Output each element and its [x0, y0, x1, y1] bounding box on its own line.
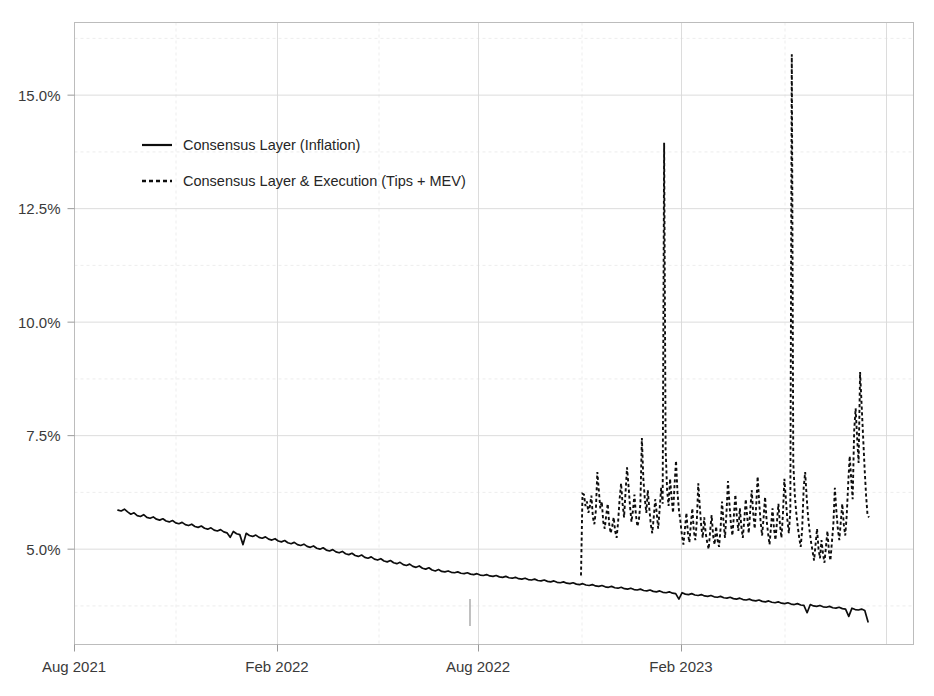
x-axis-tick-label: Aug 2022 [446, 658, 510, 675]
x-axis-tick-label: Aug 2021 [42, 658, 106, 675]
y-axis-tick-label: 15.0% [18, 87, 61, 104]
legend-label-consensus-layer-inflation: Consensus Layer (Inflation) [183, 137, 360, 153]
y-axis-tick-label: 5.0% [26, 541, 60, 558]
y-axis-tick-label: 7.5% [26, 427, 60, 444]
x-axis-tick-label: Feb 2022 [245, 658, 308, 675]
legend-label-consensus-layer-and-execution: Consensus Layer & Execution (Tips + MEV) [183, 173, 466, 189]
chart-background [0, 0, 934, 696]
y-axis-tick-label: 10.0% [18, 314, 61, 331]
y-axis-tick-label: 12.5% [18, 200, 61, 217]
chart-container: 15.0%12.5%10.0%7.5%5.0% Aug 2021Feb 2022… [0, 0, 934, 696]
x-axis-tick-label: Feb 2023 [649, 658, 712, 675]
inflation-chart: 15.0%12.5%10.0%7.5%5.0% Aug 2021Feb 2022… [0, 0, 934, 696]
